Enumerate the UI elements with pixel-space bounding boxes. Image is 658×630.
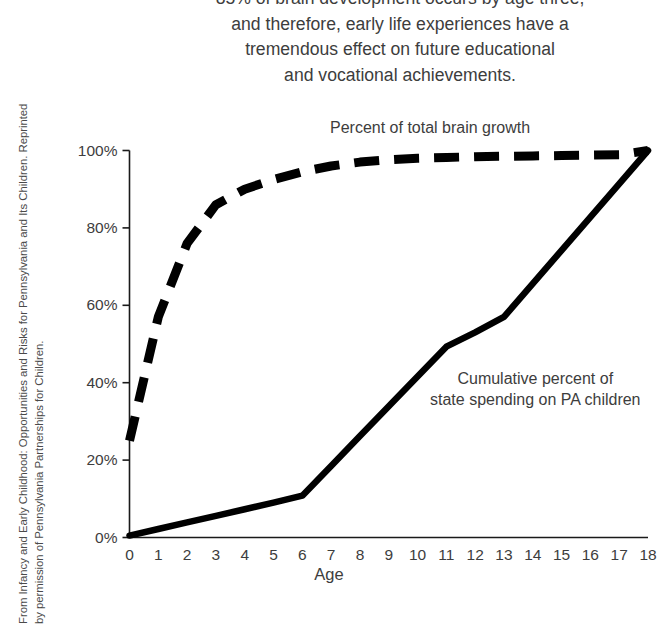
chart-axes: [123, 151, 649, 542]
x-axis-tick-label: 16: [577, 546, 603, 564]
x-axis-tick-label: 18: [635, 546, 658, 564]
x-axis-tick-label: 1: [145, 546, 171, 564]
x-axis-tick-label: 2: [174, 546, 200, 564]
series-label-state-spending-line-1: Cumulative percent of: [430, 368, 641, 389]
x-axis-tick-label: 4: [232, 546, 258, 564]
x-axis-title: Age: [0, 565, 658, 584]
series-label-brain-growth: Percent of total brain growth: [330, 117, 530, 138]
y-axis-tick-label: 20%: [62, 451, 118, 469]
x-axis-tick-label: 5: [261, 546, 287, 564]
chart-plot-area: 0%20%40%60%80%100% 012345678910111213141…: [0, 0, 658, 630]
x-axis-tick-label: 8: [347, 546, 373, 564]
x-axis-tick-label: 17: [606, 546, 632, 564]
x-axis-tick-label: 11: [433, 546, 459, 564]
x-axis-tick-label: 6: [289, 546, 315, 564]
x-axis-tick-label: 15: [549, 546, 575, 564]
y-axis-tick-label: 0%: [62, 529, 118, 547]
x-axis-tick-label: 13: [491, 546, 517, 564]
series-label-state-spending-line-2: state spending on PA children: [430, 389, 641, 410]
chart-series: [130, 151, 649, 536]
y-axis-tick-label: 80%: [62, 219, 118, 237]
series-label-state-spending: Cumulative percent of state spending on …: [430, 368, 641, 410]
x-axis-tick-label: 14: [520, 546, 546, 564]
y-axis-tick-label: 40%: [62, 374, 118, 392]
x-axis-tick-label: 3: [203, 546, 229, 564]
x-axis-tick-label: 7: [318, 546, 344, 564]
y-axis-tick-label: 60%: [62, 296, 118, 314]
x-axis-tick-label: 12: [462, 546, 488, 564]
x-axis-tick-label: 9: [376, 546, 402, 564]
x-axis-tick-label: 0: [117, 546, 143, 564]
x-axis-tick-label: 10: [405, 546, 431, 564]
y-axis-tick-label: 100%: [62, 142, 118, 160]
series-line-state-spending: [130, 151, 649, 536]
